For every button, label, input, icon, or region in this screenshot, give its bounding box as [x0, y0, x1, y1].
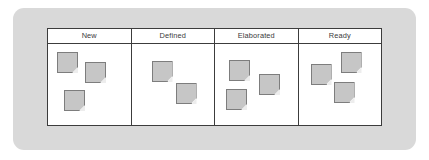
sticky-note[interactable]: [57, 52, 78, 73]
column-header-defined[interactable]: Defined: [132, 29, 216, 43]
sticky-note-body: [229, 60, 250, 81]
diagram-canvas: New Defined Elaborated Ready: [0, 0, 429, 160]
column-header-label: Ready: [329, 32, 351, 39]
sticky-note-body: [226, 89, 247, 110]
sticky-note[interactable]: [341, 52, 362, 73]
sticky-note-body: [57, 52, 78, 73]
column-body-elaborated[interactable]: [215, 44, 299, 125]
column-body-ready[interactable]: [299, 44, 382, 125]
sticky-note-body: [341, 52, 362, 73]
kanban-body-row: [48, 44, 381, 125]
kanban-header-row: New Defined Elaborated Ready: [48, 29, 381, 44]
sticky-note[interactable]: [226, 89, 247, 110]
sticky-note[interactable]: [85, 62, 106, 83]
column-header-label: New: [82, 32, 97, 39]
kanban-board: New Defined Elaborated Ready: [47, 28, 382, 126]
sticky-note-body: [259, 74, 280, 95]
sticky-note[interactable]: [259, 74, 280, 95]
sticky-note[interactable]: [176, 83, 197, 104]
column-body-new[interactable]: [48, 44, 132, 125]
sticky-note-body: [152, 61, 173, 82]
sticky-note-body: [85, 62, 106, 83]
column-header-label: Defined: [159, 32, 186, 39]
column-header-elaborated[interactable]: Elaborated: [215, 29, 299, 43]
sticky-note-body: [64, 90, 85, 111]
sticky-note[interactable]: [152, 61, 173, 82]
sticky-note-body: [311, 64, 332, 85]
sticky-note[interactable]: [64, 90, 85, 111]
sticky-note-body: [334, 82, 355, 103]
column-body-defined[interactable]: [132, 44, 216, 125]
column-header-ready[interactable]: Ready: [299, 29, 382, 43]
sticky-note[interactable]: [229, 60, 250, 81]
column-header-new[interactable]: New: [48, 29, 132, 43]
sticky-note[interactable]: [311, 64, 332, 85]
sticky-note-body: [176, 83, 197, 104]
sticky-note[interactable]: [334, 82, 355, 103]
column-header-label: Elaborated: [238, 32, 275, 39]
